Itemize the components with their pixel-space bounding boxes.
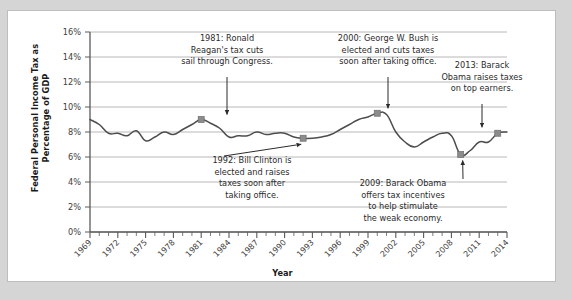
x-axis-tick-label: 1987 — [239, 238, 260, 259]
annotation-text-line: elected and raises — [214, 167, 289, 177]
data-point-marker[interactable] — [300, 135, 306, 141]
annotation-text-line: 2009: Barack Obama — [360, 178, 447, 188]
x-axis-tick-label: 1972 — [100, 238, 121, 259]
x-axis-tick-label-group: 1996 — [323, 238, 344, 259]
x-axis-tick-label-group: 2005 — [406, 238, 427, 259]
line-chart-plot: 0%2%4%6%8%10%12%14%16%196919721975197819… — [8, 11, 557, 283]
x-axis-tick-label: 2005 — [406, 238, 427, 259]
x-axis-tick-label: 1969 — [73, 238, 94, 259]
y-axis-tick-label: 0% — [68, 227, 81, 237]
x-axis-tick-label-group: 1984 — [212, 238, 233, 259]
x-axis-tick-label: 1999 — [351, 238, 372, 259]
x-axis-tick-label: 1990 — [267, 238, 288, 259]
x-axis-tick-label-group: 1981 — [184, 238, 205, 259]
annotation-text-line: elected and cuts taxes — [342, 45, 435, 55]
x-axis-tick-label: 1996 — [323, 238, 344, 259]
annotation-text-line: taxes soon after — [219, 178, 286, 188]
y-axis-tick-label: 8% — [68, 127, 81, 137]
annot-2009: 2009: Barack Obamaoffers tax incentivest… — [360, 161, 463, 223]
chart-card: Federal Personal Income Tax as Percentag… — [7, 10, 556, 282]
x-axis-tick-label-group: 1993 — [295, 238, 316, 259]
x-axis-tick-label-group: 2011 — [462, 238, 483, 259]
annotation-text-line: to help stimulate — [368, 201, 438, 211]
annotation-text-line: Reagan's tax cuts — [191, 45, 264, 55]
annot-2013: 2013: BarackObama raises taxeson top ear… — [441, 60, 522, 127]
chart-area: Federal Personal Income Tax as Percentag… — [8, 11, 557, 283]
y-axis-tick-label: 10% — [63, 102, 81, 112]
annotation-text-line: Obama raises taxes — [441, 72, 522, 82]
annotation-text-line: on top earners. — [451, 83, 514, 93]
x-axis-tick-label-group: 1969 — [73, 238, 94, 259]
x-axis-tick-label: 1981 — [184, 238, 205, 259]
x-axis-tick-label: 2002 — [378, 238, 399, 259]
x-axis-tick-label-group: 1987 — [239, 238, 260, 259]
screenshot-background: Federal Personal Income Tax as Percentag… — [0, 0, 571, 300]
x-axis-tick-label: 1978 — [156, 238, 177, 259]
annotation-text-line: 2000: George W. Bush is — [338, 33, 438, 43]
data-point-marker[interactable] — [495, 130, 501, 136]
annotation-text-line: 1992: Bill Clinton is — [212, 155, 291, 165]
y-axis-tick-label: 14% — [63, 52, 81, 62]
y-axis-tick-label: 12% — [63, 77, 81, 87]
annotation-text-line: sail through Congress. — [181, 56, 273, 66]
annotation-text-line: taking office. — [225, 190, 278, 200]
annotation-text-line: the weak economy. — [363, 213, 442, 223]
data-point-marker[interactable] — [458, 152, 464, 158]
data-line — [90, 112, 507, 156]
annotation-text-line: 2013: Barack — [455, 60, 510, 70]
x-axis-tick-label: 2008 — [434, 238, 455, 259]
annot-1981: 1981: RonaldReagan's tax cutssail throug… — [181, 33, 273, 115]
x-axis-tick-label: 1993 — [295, 238, 316, 259]
annotation-text-line: offers tax incentives — [361, 190, 444, 200]
data-point-marker[interactable] — [198, 117, 204, 123]
annotation-text-line: soon after taking office. — [339, 56, 436, 66]
annotation-text-line: 1981: Ronald — [200, 33, 254, 43]
x-axis-tick-label-group: 1999 — [351, 238, 372, 259]
x-axis-tick-label-group: 1978 — [156, 238, 177, 259]
y-axis-tick-label: 2% — [68, 202, 81, 212]
y-axis-tick-label: 6% — [68, 152, 81, 162]
x-axis-tick-label-group: 2002 — [378, 238, 399, 259]
x-axis-tick-label-group: 1972 — [100, 238, 121, 259]
x-axis-tick-label: 1984 — [212, 238, 233, 259]
y-axis-tick-label: 4% — [68, 177, 81, 187]
x-axis-tick-label-group: 2014 — [490, 238, 511, 259]
annot-1992: 1992: Bill Clinton iselected and raisest… — [212, 144, 301, 199]
x-axis-tick-label-group: 1990 — [267, 238, 288, 259]
annot-2000: 2000: George W. Bush iselected and cuts … — [338, 33, 438, 108]
data-point-marker[interactable] — [374, 110, 380, 116]
y-axis-tick-label: 16% — [63, 27, 81, 37]
x-axis-tick-label-group: 1975 — [128, 238, 149, 259]
x-axis-tick-label: 1975 — [128, 238, 149, 259]
x-axis-tick-label-group: 2008 — [434, 238, 455, 259]
x-axis-tick-label: 2014 — [490, 238, 511, 259]
x-axis-tick-label: 2011 — [462, 238, 483, 259]
